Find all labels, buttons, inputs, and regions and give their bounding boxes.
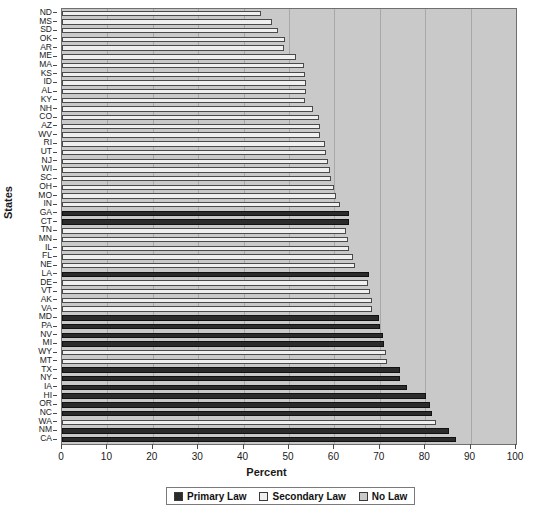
y-tick-de bbox=[53, 282, 57, 283]
bar-mn bbox=[62, 237, 348, 242]
bar-row bbox=[62, 411, 516, 416]
bar-mt bbox=[62, 359, 387, 364]
x-axis-tick-labels: 0102030405060708090100 bbox=[0, 451, 533, 465]
bar-row bbox=[62, 11, 516, 16]
chart-legend: Primary LawSecondary LawNo Law bbox=[166, 487, 415, 505]
bar-ct bbox=[62, 219, 349, 224]
y-tick-nd bbox=[53, 12, 57, 13]
bar-row bbox=[62, 106, 516, 111]
bar-row bbox=[62, 37, 516, 42]
bar-row bbox=[62, 289, 516, 294]
seatbelt-use-by-state-chart: States NDMSSDOKARMEMAKSIDALKYNHCOAZWVRIU… bbox=[0, 0, 533, 518]
x-tick-label-100: 100 bbox=[507, 451, 524, 462]
plot-area bbox=[61, 8, 517, 445]
y-tick-ga bbox=[53, 212, 57, 213]
bar-row bbox=[62, 28, 516, 33]
bar-va bbox=[62, 306, 372, 311]
y-tick-id bbox=[53, 82, 57, 83]
y-tick-in bbox=[53, 204, 57, 205]
x-tick-50 bbox=[288, 444, 289, 449]
bar-row bbox=[62, 437, 516, 442]
legend-item-secondary: Secondary Law bbox=[259, 491, 345, 502]
y-tick-ct bbox=[53, 221, 57, 222]
bar-sd bbox=[62, 28, 278, 33]
y-tick-wi bbox=[53, 169, 57, 170]
y-tick-nm bbox=[53, 430, 57, 431]
y-tick-ar bbox=[53, 47, 57, 48]
bar-row bbox=[62, 132, 516, 137]
bar-row bbox=[62, 324, 516, 329]
bar-row bbox=[62, 98, 516, 103]
bar-ia bbox=[62, 385, 407, 390]
bar-ok bbox=[62, 37, 285, 42]
bar-ga bbox=[62, 211, 349, 216]
bar-ks bbox=[62, 72, 305, 77]
bar-mo bbox=[62, 193, 336, 198]
bar-ar bbox=[62, 45, 284, 50]
bar-row bbox=[62, 341, 516, 346]
bar-row bbox=[62, 19, 516, 24]
x-tick-label-50: 50 bbox=[282, 451, 293, 462]
y-tick-ms bbox=[53, 21, 57, 22]
bar-ri bbox=[62, 141, 325, 146]
bar-ut bbox=[62, 150, 326, 155]
bar-row bbox=[62, 420, 516, 425]
y-tick-hi bbox=[53, 395, 57, 396]
x-tick-100 bbox=[515, 444, 516, 449]
y-tick-nj bbox=[53, 160, 57, 161]
bar-row bbox=[62, 254, 516, 259]
y-tick-ks bbox=[53, 73, 57, 74]
bar-ms bbox=[62, 19, 272, 24]
bar-az bbox=[62, 124, 320, 129]
bar-sc bbox=[62, 176, 331, 181]
y-tick-nc bbox=[53, 413, 57, 414]
bar-vt bbox=[62, 289, 370, 294]
x-tick-label-20: 20 bbox=[146, 451, 157, 462]
x-tick-80 bbox=[424, 444, 425, 449]
x-tick-0 bbox=[61, 444, 62, 449]
x-tick-label-90: 90 bbox=[464, 451, 475, 462]
bar-ny bbox=[62, 376, 400, 381]
bar-row bbox=[62, 124, 516, 129]
y-tick-va bbox=[53, 308, 57, 309]
x-tick-60 bbox=[333, 444, 334, 449]
bar-row bbox=[62, 333, 516, 338]
y-tick-nv bbox=[53, 334, 57, 335]
bar-row bbox=[62, 359, 516, 364]
x-tick-40 bbox=[243, 444, 244, 449]
bar-row bbox=[62, 367, 516, 372]
bar-tn bbox=[62, 228, 346, 233]
x-tick-20 bbox=[152, 444, 153, 449]
y-tick-mn bbox=[53, 239, 57, 240]
y-tick-me bbox=[53, 56, 57, 57]
bar-nv bbox=[62, 333, 383, 338]
x-tick-label-60: 60 bbox=[328, 451, 339, 462]
y-tick-co bbox=[53, 117, 57, 118]
y-tick-sc bbox=[53, 178, 57, 179]
bar-ca bbox=[62, 437, 456, 442]
y-tick-ok bbox=[53, 38, 57, 39]
x-tick-label-30: 30 bbox=[192, 451, 203, 462]
bar-il bbox=[62, 246, 349, 251]
y-tick-ak bbox=[53, 299, 57, 300]
x-tick-label-10: 10 bbox=[101, 451, 112, 462]
bar-row bbox=[62, 72, 516, 77]
bar-row bbox=[62, 54, 516, 59]
bar-nd bbox=[62, 11, 261, 16]
y-tick-oh bbox=[53, 186, 57, 187]
bar-hi bbox=[62, 393, 426, 398]
bar-la bbox=[62, 272, 369, 277]
bar-row bbox=[62, 298, 516, 303]
y-tick-ky bbox=[53, 99, 57, 100]
y-tick-ia bbox=[53, 386, 57, 387]
bar-de bbox=[62, 280, 368, 285]
y-tick-mo bbox=[53, 195, 57, 196]
bar-row bbox=[62, 202, 516, 207]
bar-row bbox=[62, 385, 516, 390]
bar-id bbox=[62, 80, 306, 85]
bar-tx bbox=[62, 367, 400, 372]
y-tick-vt bbox=[53, 291, 57, 292]
bar-pa bbox=[62, 324, 380, 329]
bar-row bbox=[62, 45, 516, 50]
bar-row bbox=[62, 141, 516, 146]
